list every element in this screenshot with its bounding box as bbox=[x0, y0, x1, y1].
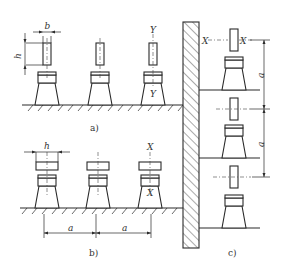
axis-y-top-label: Y bbox=[150, 25, 157, 35]
dim-a2-label: a bbox=[122, 223, 127, 233]
dimension-h-a: h bbox=[13, 33, 43, 75]
axis-x-left-label: X bbox=[201, 36, 209, 46]
dim-a2-label: a bbox=[256, 142, 266, 147]
panel-c: X X a a c) bbox=[199, 29, 270, 258]
dim-a1-label: a bbox=[256, 73, 266, 78]
panel-b: h X X a a b) bbox=[20, 141, 183, 258]
pedestal-c1: X X bbox=[201, 29, 254, 90]
caption-c: c) bbox=[228, 248, 237, 258]
dim-h-label: h bbox=[13, 53, 23, 59]
panel-a: b h Y Y a) bbox=[13, 21, 183, 133]
floor-hatch bbox=[28, 105, 183, 111]
caption-a: a) bbox=[90, 123, 99, 133]
pedestal-b2 bbox=[86, 152, 110, 208]
dim-b-label: b bbox=[45, 21, 51, 31]
axis-x-right-label: X bbox=[239, 36, 247, 46]
pedestal-a1 bbox=[35, 38, 59, 105]
wall bbox=[183, 22, 199, 248]
specimen-placement-diagram: b h Y Y a) bbox=[0, 0, 283, 274]
caption-b: b) bbox=[89, 248, 98, 258]
dim-h-label: h bbox=[44, 141, 50, 151]
pedestal-c3 bbox=[213, 166, 251, 228]
axis-y-bottom-label: Y bbox=[150, 89, 157, 99]
pedestal-a2 bbox=[88, 38, 112, 105]
pedestal-a3: Y Y bbox=[141, 25, 165, 105]
pedestal-c2 bbox=[216, 98, 250, 158]
axis-x-bottom-label: X bbox=[146, 188, 154, 198]
specimen-c1 bbox=[230, 29, 238, 51]
floor-hatch bbox=[22, 208, 177, 214]
dimension-a-c: a a bbox=[250, 40, 270, 177]
pedestal-b3: X X bbox=[138, 142, 162, 208]
axis-x-top-label: X bbox=[146, 142, 154, 152]
dimension-a-b: a a bbox=[44, 214, 151, 238]
dim-a1-label: a bbox=[68, 223, 73, 233]
pedestal-b1 bbox=[35, 152, 59, 208]
